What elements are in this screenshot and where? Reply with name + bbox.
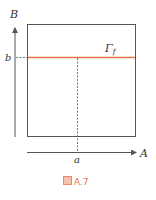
gamma-f-label: Γf	[104, 42, 117, 56]
axis-b-label: B	[9, 8, 18, 21]
b-label: b	[5, 52, 11, 63]
a-label: a	[74, 154, 80, 165]
axis-a-label: A	[139, 147, 148, 160]
caption-text: A.7	[74, 177, 89, 187]
domain-square	[28, 25, 136, 137]
figure-a7: B Γf b A a 図 A.7	[0, 0, 156, 200]
caption-icon: 図	[64, 177, 72, 186]
